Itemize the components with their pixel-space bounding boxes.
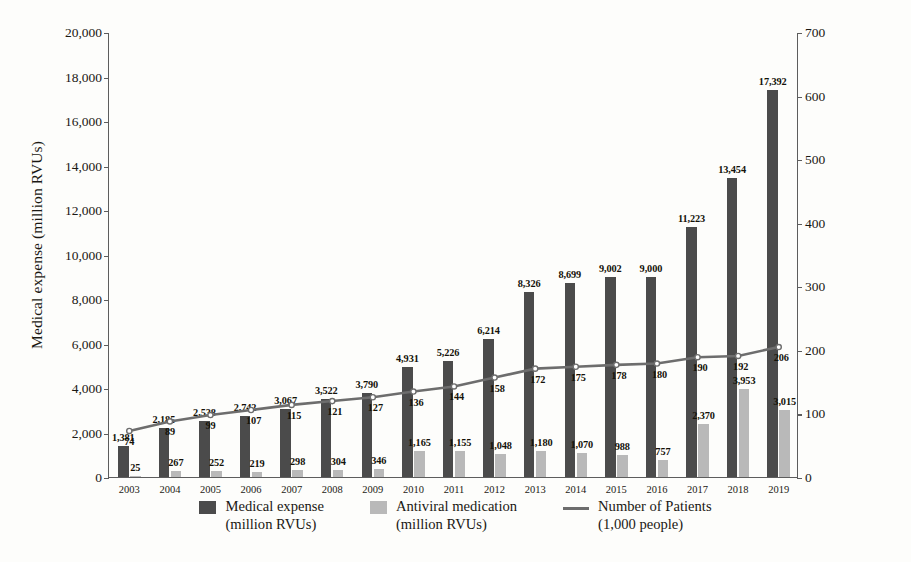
legend-item: Number of Patients(1,000 people) [563, 498, 712, 534]
x-axis-tick-label: 2007 [281, 484, 302, 495]
legend-label: Medical expense(million RVUs) [225, 498, 323, 534]
line-marker [370, 395, 375, 400]
y-axis-right-tick-label: 0 [805, 471, 812, 485]
line-marker [695, 355, 700, 360]
legend-label-line2: (million RVUs) [225, 516, 323, 534]
y-axis-left-tick-label: 8,000 [72, 293, 102, 307]
y-axis-left-tick-label: 16,000 [65, 115, 102, 129]
x-axis-tick-label: 2003 [119, 484, 140, 495]
y-axis-right-tick-label: 500 [805, 153, 825, 167]
line-marker [533, 366, 538, 371]
line-marker [492, 375, 497, 380]
line-marker [330, 398, 335, 403]
chart-legend: Medical expense(million RVUs)Antiviral m… [0, 498, 911, 534]
y-axis-left-tick-label: 6,000 [72, 338, 102, 352]
x-axis-tick-label: 2012 [484, 484, 505, 495]
y-axis-left-tick-label: 12,000 [65, 204, 102, 218]
line-marker [736, 353, 741, 358]
y-axis-right-tick-label: 300 [805, 281, 825, 295]
x-axis-tick-label: 2006 [241, 484, 262, 495]
chart-figure: Medical expense (million RVUs) Patient s… [0, 0, 911, 562]
y-axis-right-tick-label: 100 [805, 408, 825, 422]
y-axis-left-tick-mark [104, 478, 109, 479]
line-marker [167, 419, 172, 424]
y-axis-left-tick-label: 18,000 [65, 71, 102, 85]
legend-label-line2: (million RVUs) [396, 516, 517, 534]
x-axis-tick-label: 2019 [768, 484, 789, 495]
legend-label: Antiviral medication(million RVUs) [396, 498, 517, 534]
y-axis-left-tick-label: 20,000 [65, 26, 102, 40]
line-marker [289, 402, 294, 407]
x-axis-tick-label: 2013 [525, 484, 546, 495]
line-markers [127, 344, 782, 433]
y-axis-right-tick-mark [797, 478, 802, 479]
line-marker [573, 364, 578, 369]
y-axis-right-tick-label: 400 [805, 217, 825, 231]
line-marker [411, 389, 416, 394]
legend-item: Medical expense(million RVUs) [199, 498, 323, 534]
x-axis-tick-label: 2018 [728, 484, 749, 495]
y-axis-left-tick-label: 14,000 [65, 160, 102, 174]
x-axis-tick-label: 2005 [200, 484, 221, 495]
y-axis-right-tick-label: 700 [805, 26, 825, 40]
line-marker [776, 344, 781, 349]
y-axis-left-title: Medical expense (million RVUs) [28, 95, 46, 395]
legend-label-line1: Antiviral medication [396, 498, 517, 516]
legend-square-icon [370, 501, 387, 514]
y-axis-left-tick-label: 0 [95, 471, 102, 485]
x-axis-tick-label: 2016 [646, 484, 667, 495]
x-axis-tick-label: 2004 [159, 484, 180, 495]
y-axis-right-tick-label: 600 [805, 90, 825, 104]
legend-label-line1: Medical expense [225, 498, 323, 516]
x-axis-tick-label: 2010 [403, 484, 424, 495]
line-marker [451, 384, 456, 389]
legend-label-line2: (1,000 people) [598, 516, 712, 534]
x-axis-tick-label: 2015 [606, 484, 627, 495]
y-axis-left-tick-label: 2,000 [72, 427, 102, 441]
legend-label: Number of Patients(1,000 people) [598, 498, 712, 534]
x-axis-tick-label: 2009 [362, 484, 383, 495]
x-axis-tick-label: 2017 [687, 484, 708, 495]
y-axis-left-tick-label: 4,000 [72, 382, 102, 396]
y-axis-right-tick-label: 200 [805, 344, 825, 358]
legend-line-icon [563, 501, 589, 514]
x-axis-tick-label: 2014 [565, 484, 586, 495]
line-marker [654, 361, 659, 366]
line-marker [208, 412, 213, 417]
legend-label-line1: Number of Patients [598, 498, 712, 516]
x-axis-tick-label: 2008 [322, 484, 343, 495]
line-series-overlay [109, 33, 799, 478]
legend-item: Antiviral medication(million RVUs) [370, 498, 517, 534]
y-axis-left-tick-label: 10,000 [65, 249, 102, 263]
line-marker [248, 407, 253, 412]
legend-square-icon [199, 501, 216, 514]
line-marker [127, 428, 132, 433]
x-axis-tick-label: 2011 [444, 484, 465, 495]
line-marker [614, 362, 619, 367]
plot-area: 02,0004,0006,0008,00010,00012,00014,0001… [108, 33, 798, 478]
